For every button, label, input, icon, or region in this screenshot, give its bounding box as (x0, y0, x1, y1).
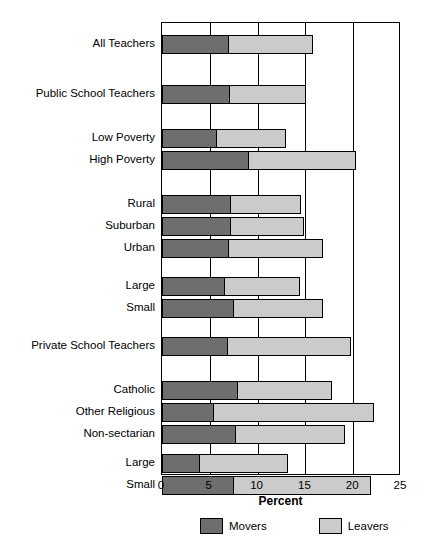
chart-figure: All TeachersPublic School TeachersLow Po… (0, 0, 427, 552)
bar-segment-movers (162, 217, 231, 236)
bar-row (162, 425, 345, 444)
bar-segment-leavers (230, 195, 301, 214)
bar-segment-leavers (213, 403, 375, 422)
bar-row (162, 454, 288, 473)
bar-segment-leavers (237, 381, 332, 400)
legend-swatch-movers (200, 518, 223, 534)
category-axis-labels: All TeachersPublic School TeachersLow Po… (0, 22, 155, 475)
bar-row (162, 129, 286, 148)
bar-segment-leavers (230, 217, 305, 236)
category-label: Large (5, 453, 155, 472)
x-tick-label-15: 15 (298, 478, 311, 492)
bar-segment-movers (162, 277, 225, 296)
bar-row (162, 277, 300, 296)
bar-segment-leavers (228, 239, 323, 258)
category-label: Urban (5, 238, 155, 257)
bar-row (162, 217, 304, 236)
category-label: Non-sectarian (5, 424, 155, 443)
x-axis-title: Percent (161, 494, 400, 508)
chart-legend: Movers Leavers (200, 518, 389, 534)
bar-segment-leavers (224, 277, 300, 296)
legend-item-leavers: Leavers (319, 518, 389, 534)
category-label: Low Poverty (5, 128, 155, 147)
bar-segment-movers (162, 454, 200, 473)
plot-area (161, 22, 400, 475)
category-label: Private School Teachers (5, 336, 155, 355)
category-label: Small (5, 475, 155, 494)
bar-segment-leavers (227, 337, 351, 356)
bar-segment-movers (162, 35, 229, 54)
x-tick-label-5: 5 (206, 478, 212, 492)
category-label: Catholic (5, 380, 155, 399)
bar-segment-movers (162, 129, 217, 148)
bar-segment-movers (162, 85, 230, 104)
bar-segment-movers (162, 239, 229, 258)
bar-segment-leavers (216, 129, 286, 148)
bar-row (162, 403, 374, 422)
bar-row (162, 239, 323, 258)
bar-row (162, 85, 306, 104)
category-label: Small (5, 298, 155, 317)
x-tick-label-25: 25 (394, 478, 407, 492)
x-tick-label-20: 20 (346, 478, 359, 492)
category-label: All Teachers (5, 34, 155, 53)
bar-segment-movers (162, 151, 249, 170)
x-tick-label-10: 10 (250, 478, 263, 492)
category-label: Other Religious (5, 402, 155, 421)
bar-segment-movers (162, 299, 234, 318)
bar-segment-leavers (248, 151, 356, 170)
bar-segment-leavers (228, 35, 313, 54)
bar-segment-leavers (199, 454, 288, 473)
category-label: Public School Teachers (5, 84, 155, 103)
bar-segment-movers (162, 403, 214, 422)
legend-swatch-leavers (319, 518, 342, 534)
bar-row (162, 381, 332, 400)
bar-row (162, 337, 351, 356)
category-label: High Poverty (5, 150, 155, 169)
legend-item-movers: Movers (200, 518, 319, 534)
bar-segment-movers (162, 425, 236, 444)
legend-label-leavers: Leavers (348, 520, 389, 532)
bar-segment-movers (162, 337, 228, 356)
legend-label-movers: Movers (229, 520, 267, 532)
category-label: Rural (5, 194, 155, 213)
bar-segment-leavers (229, 85, 306, 104)
bar-row (162, 35, 313, 54)
bar-segment-leavers (233, 299, 323, 318)
bar-row (162, 299, 323, 318)
bar-segment-leavers (235, 425, 345, 444)
category-label: Suburban (5, 216, 155, 235)
category-label: Large (5, 276, 155, 295)
bar-row (162, 151, 356, 170)
bar-row (162, 476, 371, 495)
x-tick-label-0: 0 (158, 478, 164, 492)
bar-row (162, 195, 301, 214)
bar-segment-movers (162, 195, 231, 214)
bar-segment-movers (162, 476, 234, 495)
bar-segment-movers (162, 381, 238, 400)
